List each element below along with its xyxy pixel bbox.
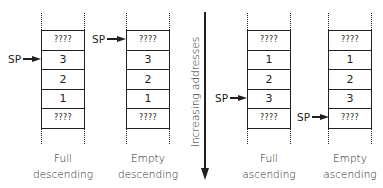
stack-cell: 3 <box>42 51 84 71</box>
stack-cell: 2 <box>329 70 371 90</box>
dotted-line <box>84 128 85 144</box>
stack-cell: ???? <box>42 31 84 51</box>
sp-label: SP <box>215 93 228 104</box>
arrow-down-icon <box>201 168 209 180</box>
stack-cell: ???? <box>42 109 84 129</box>
stack-full-descending: ???? 3 2 1 ???? Full descending <box>41 0 85 188</box>
stack-pointer: SP <box>297 111 329 123</box>
arrow-right-icon <box>23 58 32 59</box>
stack-cell: ???? <box>127 31 169 51</box>
sp-label: SP <box>8 54 21 65</box>
address-axis-line <box>204 12 206 170</box>
stack-empty-ascending: ???? 1 2 3 ???? Empty ascending <box>328 0 372 188</box>
dotted-line <box>169 13 170 30</box>
sp-label: SP <box>297 112 310 123</box>
stack-label: Full descending <box>21 151 105 182</box>
stack-empty-descending: ???? 3 2 1 ???? Empty descending <box>126 0 170 188</box>
dotted-line <box>169 128 170 144</box>
stack-cell: 1 <box>248 51 290 71</box>
stack-cells: ???? 3 2 1 ???? <box>126 30 170 129</box>
dotted-line <box>126 128 127 144</box>
arrowhead-icon <box>117 36 126 42</box>
dotted-line <box>290 128 291 144</box>
stack-cell: 1 <box>127 90 169 110</box>
stack-cell: ???? <box>248 109 290 129</box>
stack-label: Empty ascending <box>308 151 383 182</box>
dotted-line <box>84 13 85 30</box>
stack-cell: ???? <box>248 31 290 51</box>
stack-cell: ???? <box>127 109 169 129</box>
stack-label: Full ascending <box>227 151 311 182</box>
stack-cells: ???? 3 2 1 ???? <box>41 30 85 129</box>
dotted-line <box>247 13 248 30</box>
dotted-line <box>41 128 42 144</box>
arrowhead-icon <box>238 95 247 101</box>
stack-cell: 3 <box>248 90 290 110</box>
address-axis-label: Increasing addresses <box>189 37 201 147</box>
stack-cell: 3 <box>127 51 169 71</box>
stack-pointer: SP <box>215 92 247 104</box>
stack-cell: 2 <box>248 70 290 90</box>
dotted-line <box>247 128 248 144</box>
stack-cell: ???? <box>329 109 371 129</box>
arrow-right-icon <box>107 38 117 39</box>
stack-full-ascending: ???? 1 2 3 ???? Full ascending <box>247 0 291 188</box>
dotted-line <box>371 128 372 144</box>
dotted-line <box>41 13 42 30</box>
dotted-line <box>328 13 329 30</box>
stack-pointer: SP <box>8 53 41 65</box>
dotted-line <box>126 13 127 30</box>
arrowhead-icon <box>320 114 329 120</box>
stack-cell: 2 <box>127 70 169 90</box>
stack-cell: 3 <box>329 90 371 110</box>
dotted-line <box>371 13 372 30</box>
stack-cells: ???? 1 2 3 ???? <box>247 30 291 129</box>
sp-label: SP <box>92 34 105 45</box>
arrow-right-icon <box>230 97 238 98</box>
stack-cell: 2 <box>42 70 84 90</box>
stack-cells: ???? 1 2 3 ???? <box>328 30 372 129</box>
stack-cell: 1 <box>42 90 84 110</box>
arrowhead-icon <box>32 56 41 62</box>
stack-label: Empty descending <box>106 151 190 182</box>
stack-cell: ???? <box>329 31 371 51</box>
stack-pointer: SP <box>92 33 126 45</box>
dotted-line <box>328 128 329 144</box>
stack-cell: 1 <box>329 51 371 71</box>
arrow-right-icon <box>312 116 320 117</box>
dotted-line <box>290 13 291 30</box>
